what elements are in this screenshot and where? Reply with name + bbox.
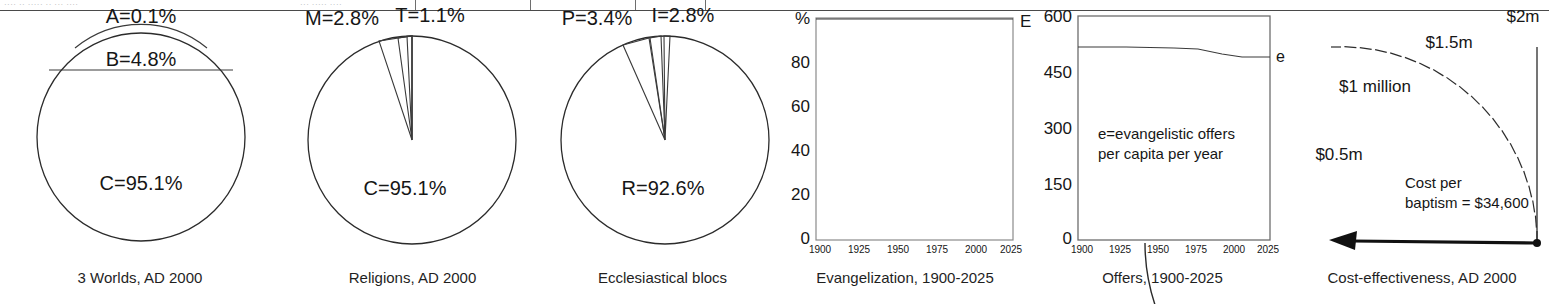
segment-label-p: P=3.4% — [562, 7, 633, 29]
pie-wedge-i — [650, 36, 665, 140]
panel-caption-ecclesiastical-blocs: Ecclesiastical blocs — [545, 269, 780, 286]
offers-chart: e 600 450 300 150 0 e=evangelistic offer… — [1030, 0, 1295, 262]
segment-label-c: C=95.1% — [364, 177, 447, 199]
y-tick-20: 20 — [791, 185, 810, 204]
segment-label-i: I=2.8% — [652, 4, 715, 26]
x-tick-1950: 1950 — [1147, 244, 1170, 255]
segment-label-t: T=1.1% — [395, 4, 465, 26]
cost-effectiveness-gauge: $0.5m $1 million $1.5m $2m Cost per bapt… — [1295, 0, 1549, 262]
gauge-needle — [1353, 241, 1537, 243]
panel-caption-evangelization: Evangelization, 1900-2025 — [780, 269, 1030, 286]
y-axis-unit-label: % — [795, 9, 810, 28]
panel-caption-cost-effectiveness: Cost-effectiveness, AD 2000 — [1295, 269, 1549, 286]
panel-cost-effectiveness: $0.5m $1 million $1.5m $2m Cost per bapt… — [1295, 0, 1549, 304]
gauge-scale-label-0: $0.5m — [1315, 145, 1362, 164]
y-tick-40: 40 — [791, 141, 810, 160]
ecclesiastical-blocs-chart: P=3.4% I=2.8% R=92.6% — [545, 0, 780, 262]
x-tick-2000: 2000 — [1223, 244, 1246, 255]
segment-label-a: A=0.1% — [106, 5, 177, 27]
chart-note-line-1: e=evangelistic offers — [1098, 125, 1235, 142]
chart-note-line-2: per capita per year — [1098, 145, 1223, 162]
x-tick-2000: 2000 — [965, 244, 988, 255]
panel-offers: e 600 450 300 150 0 e=evangelistic offer… — [1030, 0, 1295, 304]
panel-caption-religions: Religions, AD 2000 — [280, 269, 545, 286]
panel-three-worlds: A=0.1% B=4.8% C=95.1% 3 Worlds, AD 2000 — [0, 0, 280, 304]
three-worlds-chart: A=0.1% B=4.8% C=95.1% — [0, 0, 280, 262]
x-tick-2025: 2025 — [1000, 244, 1023, 255]
pie-wedge-other — [664, 36, 670, 140]
y-tick-150: 150 — [1044, 175, 1072, 194]
x-tick-1900: 1900 — [1071, 244, 1094, 255]
x-tick-1900: 1900 — [809, 244, 832, 255]
segment-label-c: C=95.1% — [100, 172, 183, 194]
gauge-scale-label-3: $2m — [1506, 7, 1539, 26]
gauge-annotation-line-2: baptism = $34,600 — [1405, 194, 1529, 211]
y-tick-80: 80 — [791, 53, 810, 72]
x-tick-1925: 1925 — [848, 244, 871, 255]
figure-strip: ···· ·· ····· ·· ··· ···· ··· ····· ····… — [0, 0, 1549, 304]
panel-caption-three-worlds: 3 Worlds, AD 2000 — [0, 269, 280, 286]
panel-religions: M=2.8% T=1.1% C=95.1% Religions, AD 2000 — [280, 0, 545, 304]
x-tick-1950: 1950 — [887, 244, 910, 255]
gauge-scale-label-2: $1.5m — [1425, 33, 1472, 52]
x-tick-1925: 1925 — [1109, 244, 1132, 255]
panel-evangelization: % E 80 60 40 20 0 1900 1925 1950 1975 20… — [780, 0, 1030, 304]
y-tick-60: 60 — [791, 97, 810, 116]
gauge-needle-arrowhead — [1329, 231, 1357, 250]
gauge-scale-label-1: $1 million — [1339, 77, 1411, 96]
gauge-pivot — [1533, 239, 1541, 247]
segment-label-b: B=4.8% — [106, 48, 177, 70]
y-tick-450: 450 — [1044, 63, 1072, 82]
panel-caption-offers: Offers, 1900-2025 — [1030, 269, 1295, 286]
segment-label-m: M=2.8% — [305, 7, 379, 29]
segment-label-r: R=92.6% — [622, 177, 705, 199]
religions-chart: M=2.8% T=1.1% C=95.1% — [280, 0, 545, 262]
gauge-annotation-line-1: Cost per — [1405, 174, 1462, 191]
x-tick-1975: 1975 — [1185, 244, 1208, 255]
x-tick-1975: 1975 — [926, 244, 949, 255]
pie-wedge-p — [623, 38, 665, 140]
plot-frame — [816, 18, 1013, 240]
panel-ecclesiastical-blocs: P=3.4% I=2.8% R=92.6% Ecclesiastical blo… — [545, 0, 780, 304]
evangelization-chart: % E 80 60 40 20 0 1900 1925 1950 1975 20… — [780, 0, 1030, 262]
y-tick-600: 600 — [1044, 7, 1072, 26]
x-tick-2025: 2025 — [1257, 244, 1280, 255]
pie-wedge-m — [379, 36, 412, 140]
series-label-e: e — [1276, 48, 1285, 65]
y-tick-300: 300 — [1044, 119, 1072, 138]
